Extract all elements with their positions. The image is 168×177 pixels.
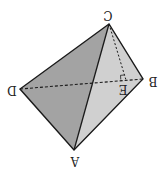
label-b: B (148, 74, 157, 88)
tetrahedron-diagram: C B D E A (0, 0, 168, 177)
label-e: E (119, 82, 128, 96)
label-d: D (7, 83, 17, 97)
diagram-svg: C B D E A (0, 0, 168, 177)
label-c: C (103, 8, 112, 22)
label-a: A (70, 154, 80, 168)
